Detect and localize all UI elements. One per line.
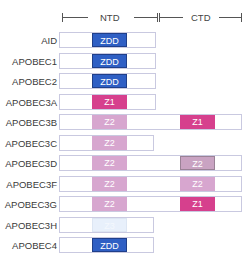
protein-row: APOBEC3GZ2Z1 — [0, 196, 252, 214]
ntd-domain-box: Z2 — [92, 136, 127, 150]
protein-label: APOBEC3C — [5, 137, 57, 151]
ntd-domain-box: ZDD — [92, 74, 127, 88]
protein-row: APOBEC3BZ2Z1 — [0, 114, 252, 132]
protein-row: AIDZDD — [0, 32, 252, 50]
ntd-domain-box: Z2 — [92, 177, 127, 191]
protein-label: APOBEC3B — [6, 116, 57, 130]
ntd-domain-box: Z1 — [92, 95, 127, 109]
ntd-end-tick — [157, 13, 158, 22]
protein-label: APOBEC3F — [6, 178, 57, 192]
ctd-domain-box: Z1 — [180, 197, 215, 211]
ntd-domain-box: ZDD — [92, 238, 127, 252]
protein-row: APOBEC3AZ1 — [0, 94, 252, 112]
protein-label: APOBEC2 — [12, 75, 57, 89]
ntd-right-line — [134, 17, 158, 18]
ntd-domain-box: ZDD — [92, 33, 127, 47]
ctd-end-tick — [241, 13, 242, 22]
protein-row: APOBEC4ZDD — [0, 237, 252, 255]
ntd-domain-box: Z2 — [92, 115, 127, 129]
protein-label: APOBEC3G — [5, 198, 57, 212]
ntd-label: NTD — [100, 12, 120, 24]
ctd-domain-box: Z1 — [180, 115, 215, 129]
ntd-domain-box: ZDD — [92, 54, 127, 68]
ntd-domain-box: Z2 — [92, 156, 127, 170]
protein-label: APOBEC1 — [12, 55, 57, 69]
protein-label: APOBEC3H — [5, 219, 57, 233]
ntd-left-line — [62, 17, 88, 18]
ntd-domain-box: Z2 — [92, 197, 127, 211]
ctd-domain-box: Z2 — [180, 156, 215, 170]
protein-label: AID — [41, 34, 57, 48]
protein-row: APOBEC2ZDD — [0, 73, 252, 91]
protein-label: APOBEC4 — [12, 239, 57, 253]
protein-label: APOBEC3A — [6, 96, 57, 110]
domain-header: NTD CTD — [0, 12, 252, 24]
ctd-domain-box: Z2 — [180, 177, 215, 191]
ctd-right-line — [219, 17, 241, 18]
ctd-label: CTD — [191, 12, 211, 24]
ctd-left-line — [159, 17, 183, 18]
protein-row: APOBEC1ZDD — [0, 53, 252, 71]
protein-row: APOBEC3CZ2 — [0, 135, 252, 153]
protein-row: APOBEC3HZ3 — [0, 217, 252, 235]
protein-label: APOBEC3D — [5, 157, 57, 171]
protein-row: APOBEC3DZ2Z2 — [0, 155, 252, 173]
protein-row: APOBEC3FZ2Z2 — [0, 176, 252, 194]
ntd-domain-box: Z3 — [92, 218, 127, 232]
